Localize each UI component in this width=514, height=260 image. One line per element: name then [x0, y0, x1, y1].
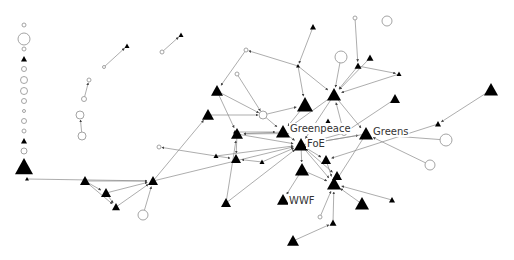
edge: [299, 27, 313, 63]
labels-layer: Greenpeace FoE Greens WWF: [288, 123, 410, 206]
circle-node-icon: [22, 99, 27, 104]
triangle-node-icon: [327, 88, 341, 101]
label-foe: FoE: [307, 138, 325, 149]
edge: [320, 191, 331, 217]
triangle-node-icon: [359, 127, 373, 140]
edge: [355, 18, 358, 62]
triangle-node-icon: [15, 158, 33, 174]
circle-node-icon: [440, 134, 452, 146]
circle-node-icon: [18, 33, 30, 45]
circle-node-icon: [82, 97, 87, 102]
triangle-node-icon: [231, 154, 241, 163]
triangle-node-icon: [276, 125, 290, 138]
circle-node-icon: [335, 51, 347, 63]
edge: [262, 148, 294, 162]
triangle-node-icon: [112, 203, 120, 210]
edge: [217, 91, 259, 113]
triangle-node-icon: [202, 109, 214, 120]
edge: [339, 66, 358, 89]
circle-node-icon: [425, 160, 435, 170]
edge: [106, 182, 147, 193]
edge: [237, 74, 260, 111]
edges-layer: [27, 18, 491, 241]
edge: [342, 186, 392, 200]
circle-node-icon: [318, 215, 322, 219]
label-greens: Greens: [373, 126, 409, 137]
triangle-node-icon: [277, 194, 289, 205]
triangle-node-icon: [231, 128, 243, 139]
edge: [116, 184, 148, 207]
triangle-node-icon: [80, 176, 90, 185]
edge: [342, 74, 399, 93]
triangle-node-icon: [355, 197, 369, 210]
circle-node-icon: [22, 119, 27, 124]
circle-node-icon: [157, 145, 161, 149]
triangle-node-icon: [21, 138, 27, 143]
triangle-node-icon: [390, 94, 400, 103]
triangle-node-icon: [484, 83, 498, 96]
circle-node-icon: [22, 23, 26, 27]
triangle-node-icon: [125, 44, 130, 49]
nodes-layer: [15, 16, 498, 246]
triangle-node-icon: [211, 85, 223, 96]
edge: [333, 192, 334, 223]
circle-node-icon: [76, 111, 84, 119]
edge: [298, 66, 328, 90]
edge: [217, 91, 234, 128]
edge: [263, 107, 296, 115]
circle-node-icon: [259, 111, 267, 119]
circle-node-icon: [87, 78, 91, 82]
edge: [373, 137, 430, 165]
edge: [293, 225, 329, 241]
triangle-node-icon: [101, 188, 111, 197]
triangle-node-icon: [310, 24, 316, 29]
triangle-node-icon: [221, 198, 231, 207]
triangle-node-icon: [435, 121, 441, 126]
edge: [242, 160, 262, 162]
edge: [338, 134, 366, 177]
edge: [249, 51, 298, 66]
triangle-node-icon: [21, 56, 27, 61]
triangle-node-icon: [179, 33, 184, 38]
edge: [162, 147, 216, 156]
edge: [216, 146, 293, 156]
edge: [153, 147, 293, 181]
circle-node-icon: [22, 47, 26, 51]
edge: [441, 90, 491, 122]
triangle-node-icon: [330, 220, 337, 226]
circle-node-icon: [160, 50, 164, 54]
edge: [298, 66, 303, 96]
triangle-node-icon: [297, 97, 313, 111]
circle-node-icon: [78, 132, 86, 140]
edge: [221, 50, 246, 85]
circle-node-icon: [21, 77, 28, 84]
triangle-node-icon: [355, 63, 362, 69]
edge: [162, 37, 178, 52]
triangle-node-icon: [287, 235, 299, 246]
label-wwf: WWF: [289, 195, 315, 206]
edge: [153, 120, 204, 181]
circle-node-icon: [23, 110, 26, 113]
circle-node-icon: [235, 72, 239, 76]
network-diagram: Greenpeace FoE Greens WWF: [0, 0, 514, 260]
circle-node-icon: [22, 67, 27, 72]
edge: [104, 48, 124, 67]
circle-node-icon: [138, 210, 148, 220]
circle-node-icon: [103, 66, 106, 69]
circle-node-icon: [353, 16, 357, 20]
triangle-node-icon: [367, 55, 374, 61]
label-greenpeace: Greenpeace: [290, 123, 351, 134]
circle-node-icon: [244, 48, 248, 52]
circle-node-icon: [21, 88, 28, 95]
triangle-node-icon: [397, 72, 402, 77]
triangle-node-icon: [321, 155, 331, 164]
triangle-node-icon: [295, 163, 309, 176]
edge: [358, 66, 396, 73]
circle-node-icon: [22, 129, 26, 133]
edge: [226, 141, 236, 203]
circle-node-icon: [21, 148, 27, 154]
circle-node-icon: [382, 16, 392, 26]
